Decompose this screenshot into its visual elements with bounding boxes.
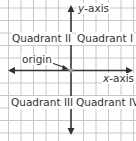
quadrant-iii-label: Quadrant III bbox=[10, 96, 74, 109]
origin-label: origin bbox=[21, 54, 53, 65]
x-axis-label-rest: -axis bbox=[109, 72, 134, 84]
grid-and-axes bbox=[0, 0, 136, 141]
origin-point bbox=[69, 68, 74, 73]
y-axis-bottom-arrow-icon bbox=[68, 128, 75, 135]
y-axis-label-rest: -axis bbox=[84, 2, 109, 14]
origin-pointer-arrow-icon bbox=[62, 65, 69, 70]
y-axis-label: y-axis bbox=[77, 3, 110, 14]
x-axis-label: x-axis bbox=[102, 73, 135, 84]
quadrant-ii-label: Quadrant II bbox=[11, 32, 72, 45]
quadrant-iv-label: Quadrant IV bbox=[75, 96, 136, 109]
x-axis-left-arrow-icon bbox=[8, 67, 15, 74]
quadrant-i-label: Quadrant I bbox=[76, 32, 134, 45]
coordinate-plane-diagram: y-axis x-axis Quadrant II Quadrant I Qua… bbox=[0, 0, 136, 141]
